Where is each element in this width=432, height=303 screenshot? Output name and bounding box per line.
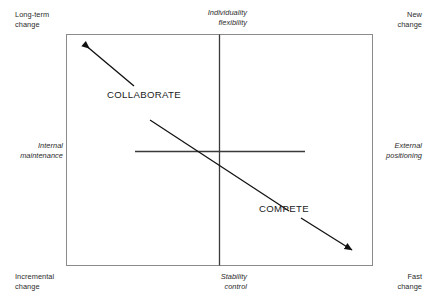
collaborate-arrow <box>84 44 134 86</box>
axis-label-right-center: External positioning <box>342 141 422 161</box>
diagram-canvas: Long-term change New change Incremental … <box>0 0 432 303</box>
axis-label-top-center: Individuality flexibility <box>167 8 247 28</box>
compete-arrow <box>301 218 352 250</box>
corner-label-bottom-right: Fast change <box>342 272 422 292</box>
strategy-label-compete: COMPETE <box>259 203 309 214</box>
axis-label-bottom-center: Stability control <box>167 272 247 292</box>
strategy-label-collaborate: COLLABORATE <box>107 89 181 100</box>
corner-label-top-left: Long-term change <box>15 10 85 30</box>
corner-label-bottom-left: Incremental change <box>15 272 90 292</box>
axis-label-left-center: Internal maintenance <box>0 141 63 161</box>
corner-label-top-right: New change <box>342 10 422 30</box>
